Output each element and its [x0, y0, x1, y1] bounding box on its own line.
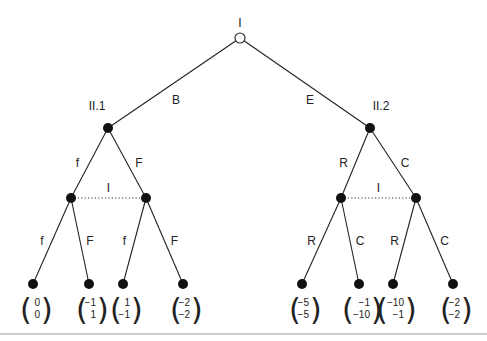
- payoff-player2: −5: [298, 309, 310, 320]
- payoff-player1: −1: [85, 297, 97, 308]
- decision-node: [141, 193, 151, 203]
- action-label: R: [339, 156, 348, 170]
- payoff-player2: −1: [119, 309, 131, 320]
- player-label: I: [238, 16, 241, 30]
- action-label: F: [86, 234, 93, 248]
- terminal-node: [84, 279, 94, 289]
- payoff-right-paren: ): [461, 292, 473, 327]
- root-node: [235, 33, 245, 43]
- action-label: C: [356, 234, 365, 248]
- terminal-node: [354, 279, 364, 289]
- payoff-player1: −2: [179, 297, 191, 308]
- edge-root-E: [240, 38, 370, 128]
- edge-root-B: [108, 38, 240, 128]
- decision-node: [336, 193, 346, 203]
- payoff-player2: −1: [393, 309, 405, 320]
- action-label: B: [172, 93, 180, 107]
- action-label: C: [440, 234, 449, 248]
- payoff-left-paren: (: [20, 292, 32, 327]
- payoff-player2: 0: [34, 309, 40, 320]
- payoff-right-paren: ): [97, 292, 109, 327]
- action-label: F: [135, 156, 142, 170]
- terminal-node: [178, 279, 188, 289]
- payoff-left-paren: (: [376, 292, 388, 327]
- payoff-player2: −10: [353, 309, 370, 320]
- action-label: R: [307, 234, 316, 248]
- terminal-node: [118, 279, 128, 289]
- payoff-left-paren: (: [342, 292, 354, 327]
- action-label: F: [171, 234, 178, 248]
- payoff-right-paren: ): [41, 292, 53, 327]
- action-label: E: [306, 93, 314, 107]
- action-label: R: [390, 234, 399, 248]
- action-label: f: [76, 156, 80, 170]
- decision-node: [103, 123, 113, 133]
- terminal-node: [297, 279, 307, 289]
- decision-node: [365, 123, 375, 133]
- payoff-right-paren: ): [405, 292, 417, 327]
- action-label: C: [401, 156, 410, 170]
- game-tree: BEIII.1fFIfFfF()00()−11()1−1()−2−2II.2RC…: [0, 0, 487, 341]
- player-label: II.2: [373, 99, 390, 113]
- information-set-label: I: [107, 181, 110, 195]
- payoff-player1: 0: [34, 297, 40, 308]
- payoff-player2: −2: [179, 309, 191, 320]
- payoff-player1: −10: [387, 297, 404, 308]
- payoff-player1: 1: [124, 297, 130, 308]
- decision-node: [66, 193, 76, 203]
- action-label: f: [123, 234, 127, 248]
- payoff-right-paren: ): [131, 292, 143, 327]
- terminal-node: [448, 279, 458, 289]
- payoff-player2: 1: [90, 309, 96, 320]
- edge-leaf: [123, 198, 146, 284]
- terminal-node: [28, 279, 38, 289]
- terminal-node: [388, 279, 398, 289]
- payoff-player2: −2: [449, 309, 461, 320]
- decision-node: [411, 193, 421, 203]
- payoff-player1: −5: [298, 297, 310, 308]
- payoff-right-paren: ): [310, 292, 322, 327]
- information-set-label: I: [377, 181, 380, 195]
- payoff-right-paren: ): [191, 292, 203, 327]
- player-label: II.1: [89, 99, 106, 113]
- edge-leaf: [33, 198, 71, 284]
- action-label: f: [40, 234, 44, 248]
- payoff-player1: −2: [449, 297, 461, 308]
- payoff-player1: −1: [359, 297, 371, 308]
